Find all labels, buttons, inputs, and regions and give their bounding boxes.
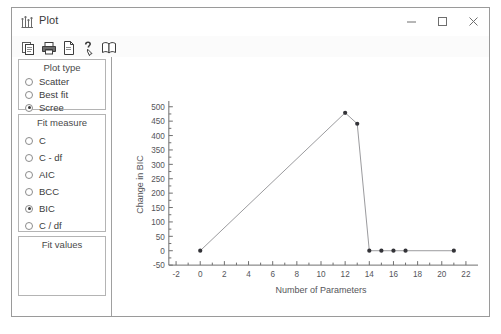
y-tick-label: 300 (151, 161, 165, 170)
window-controls (396, 8, 489, 35)
y-tick-label: 0 (160, 247, 165, 256)
x-tick-label: 14 (365, 270, 375, 279)
y-tick-label: -50 (153, 261, 165, 270)
series-line (200, 113, 454, 251)
chart-canvas: -50050100150200250300350400450500-202468… (112, 57, 490, 318)
title-bar: Plot (12, 8, 489, 36)
y-tick-label: 200 (151, 189, 165, 198)
y-tick-label: 350 (151, 146, 165, 155)
x-tick-label: 18 (413, 270, 423, 279)
plot-window: Plot (11, 7, 490, 317)
x-axis-title: Number of Parameters (275, 285, 367, 295)
y-tick-label: 50 (156, 233, 166, 242)
book-icon[interactable] (100, 39, 117, 56)
plot-area: -50050100150200250300350400450500-202468… (112, 57, 489, 316)
radio-c-minus-df-indicator (25, 154, 33, 162)
x-tick-label: -2 (172, 270, 180, 279)
x-tick-label: 10 (316, 270, 326, 279)
y-tick-label: 400 (151, 132, 165, 141)
radio-c-label: C (39, 135, 46, 146)
x-tick-label: 2 (222, 270, 227, 279)
x-tick-label: 22 (461, 270, 471, 279)
radio-bic[interactable]: BIC (25, 200, 103, 217)
radio-bic-label: BIC (39, 203, 55, 214)
x-tick-label: 12 (341, 270, 351, 279)
print-icon[interactable] (40, 39, 57, 56)
radio-scree[interactable]: Scree (25, 101, 103, 114)
radio-c-minus-df[interactable]: C - df (25, 149, 103, 166)
fit-values-group: Fit values (18, 236, 106, 296)
radio-bcc-label: BCC (39, 186, 59, 197)
radio-bcc-indicator (25, 188, 33, 196)
options-panel: Plot type Scatter Best fit Scree (12, 57, 112, 316)
data-point (391, 249, 395, 253)
x-tick-label: 4 (246, 270, 251, 279)
radio-c-over-df-label: C / df (39, 220, 62, 231)
x-tick-label: 16 (389, 270, 399, 279)
fit-values-title: Fit values (19, 239, 105, 250)
data-point (367, 249, 371, 253)
minimize-icon[interactable] (396, 8, 427, 35)
y-tick-label: 150 (151, 204, 165, 213)
x-tick-label: 0 (198, 270, 203, 279)
radio-best-fit[interactable]: Best fit (25, 88, 103, 101)
plot-type-title: Plot type (19, 62, 105, 73)
radio-c[interactable]: C (25, 132, 103, 149)
help-pointer-icon[interactable] (80, 39, 97, 56)
radio-scree-indicator (25, 104, 33, 112)
y-tick-label: 500 (151, 103, 165, 112)
maximize-icon[interactable] (427, 8, 458, 35)
radio-c-over-df-indicator (25, 222, 33, 230)
copy-icon[interactable] (20, 39, 37, 56)
radio-best-fit-label: Best fit (39, 89, 68, 100)
plot-type-options: Scatter Best fit Scree (25, 75, 103, 114)
data-point (343, 111, 347, 115)
radio-scatter-label: Scatter (39, 76, 69, 87)
data-point (403, 249, 407, 253)
radio-scree-label: Scree (39, 102, 64, 113)
radio-c-indicator (25, 137, 33, 145)
fit-measure-title: Fit measure (19, 117, 105, 128)
data-point (452, 249, 456, 253)
data-point (198, 249, 202, 253)
y-tick-label: 100 (151, 218, 165, 227)
radio-best-fit-indicator (25, 91, 33, 99)
x-tick-label: 20 (437, 270, 447, 279)
scree-chart: -50050100150200250300350400450500-202468… (112, 57, 489, 316)
radio-bcc[interactable]: BCC (25, 183, 103, 200)
radio-c-minus-df-label: C - df (39, 152, 62, 163)
radio-scatter[interactable]: Scatter (25, 75, 103, 88)
radio-aic-label: AIC (39, 169, 55, 180)
page-setup-icon[interactable] (60, 39, 77, 56)
x-tick-label: 8 (295, 270, 300, 279)
window-title: Plot (39, 14, 58, 26)
fit-measure-options: C C - df AIC BCC (25, 132, 103, 234)
toolbar (12, 36, 489, 59)
fit-measure-group: Fit measure C C - df AIC (18, 114, 106, 232)
radio-aic[interactable]: AIC (25, 166, 103, 183)
x-tick-label: 6 (270, 270, 275, 279)
radio-scatter-indicator (25, 78, 33, 86)
y-tick-label: 450 (151, 117, 165, 126)
plot-icon (21, 15, 34, 28)
plot-type-group: Plot type Scatter Best fit Scree (18, 59, 106, 110)
y-axis-title: Change in BIC (135, 155, 145, 214)
radio-c-over-df[interactable]: C / df (25, 217, 103, 234)
screen: Plot (0, 0, 501, 334)
data-point (355, 122, 359, 126)
close-icon[interactable] (458, 8, 489, 35)
y-tick-label: 250 (151, 175, 165, 184)
window-body: Plot type Scatter Best fit Scree (12, 57, 489, 316)
radio-aic-indicator (25, 171, 33, 179)
data-point (379, 249, 383, 253)
radio-bic-indicator (25, 205, 33, 213)
